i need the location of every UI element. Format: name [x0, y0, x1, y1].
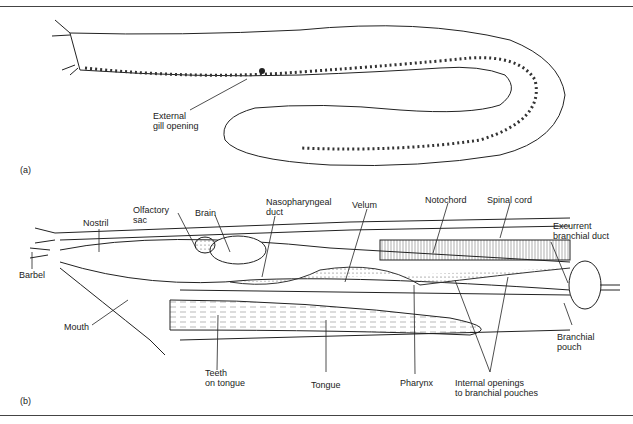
gill-opening-dot	[259, 68, 265, 74]
label-branchial-pouch: Branchial pouch	[557, 332, 595, 352]
hagfish-body	[52, 20, 565, 166]
label-brain: Brain	[195, 208, 216, 218]
label-pharynx: Pharynx	[400, 378, 433, 388]
label-spinal-cord: Spinal cord	[487, 195, 532, 205]
label-olfactory-sac: Olfactory sac	[133, 205, 169, 225]
label-excurrent-branchial-duct: Excurrent branchial duct	[553, 221, 609, 241]
label-nostril: Nostril	[83, 218, 109, 228]
leader-external-gill	[190, 79, 247, 110]
label-nasopharyngeal-duct: Nasopharyngeal duct	[266, 197, 332, 217]
label-velum: Velum	[352, 200, 377, 210]
panel-a-tag: (a)	[20, 165, 31, 175]
label-mouth: Mouth	[64, 322, 89, 332]
sagittal-section	[30, 218, 620, 355]
label-external-gill-opening: External gill opening	[153, 111, 199, 131]
label-tongue: Tongue	[311, 380, 341, 390]
label-internal-openings: Internal openings to branchial pouches	[455, 378, 538, 398]
panel-b-tag: (b)	[20, 396, 31, 406]
label-notochord: Notochord	[425, 195, 467, 205]
leader-lines	[32, 203, 572, 374]
label-barbel: Barbel	[19, 270, 45, 280]
label-teeth-on-tongue: Teeth on tongue	[205, 368, 245, 388]
